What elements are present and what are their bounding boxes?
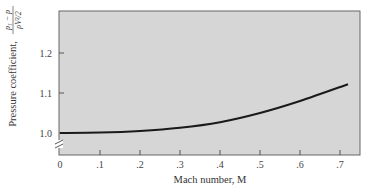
y-axis-title: Pressure coefficient, p₁ − p ρV²/2 <box>3 6 23 127</box>
y-tick-label: 1.1 <box>40 88 53 99</box>
x-tick-label: 0 <box>58 159 63 170</box>
y-tick-label: 1.2 <box>40 48 53 59</box>
x-tick-label: .7 <box>336 159 344 170</box>
y-tick-label: 1.0 <box>40 128 53 139</box>
x-tick-label: .5 <box>256 159 264 170</box>
x-tick-label: .3 <box>176 159 184 170</box>
x-tick-label: .2 <box>136 159 144 170</box>
y-axis-title-numerator: p₁ − p <box>3 10 12 31</box>
x-tick-label: .4 <box>216 159 224 170</box>
y-axis-title-prefix: Pressure coefficient, <box>7 41 18 127</box>
x-tick-label: .6 <box>296 159 304 170</box>
chart: 1.01.11.2 0.1.2.3.4.5.6.7 Mach number, M… <box>0 0 375 190</box>
x-tick-label: .1 <box>96 159 104 170</box>
axis-break-icon <box>55 140 63 148</box>
x-axis-title: Mach number, M <box>174 174 247 185</box>
y-axis-title-denominator: ρV²/2 <box>14 11 23 29</box>
